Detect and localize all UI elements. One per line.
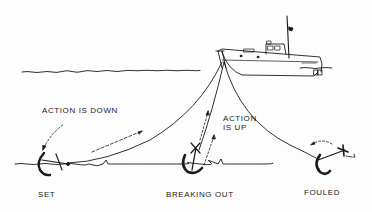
label-set: SET [38, 190, 55, 199]
label-action-is-up: ACTION IS UP [223, 114, 257, 131]
label-breaking-out: BREAKING OUT [166, 190, 234, 199]
boat [216, 16, 322, 76]
rode-breaking-out [199, 62, 224, 150]
water-surface-line [22, 68, 332, 73]
label-action-is-down: ACTION IS DOWN [42, 106, 118, 115]
label-action-is-up-line2: IS UP [223, 123, 257, 132]
label-action-is-up-line1: ACTION [223, 114, 257, 123]
label-fouled: FOULED [304, 188, 340, 197]
anchor-fouled-icon [311, 141, 355, 174]
anchor-set-icon [39, 124, 142, 175]
anchor-diagram: ACTION IS DOWN ACTION IS UP SET BREAKING… [0, 0, 372, 212]
rode-fouled [224, 62, 316, 158]
